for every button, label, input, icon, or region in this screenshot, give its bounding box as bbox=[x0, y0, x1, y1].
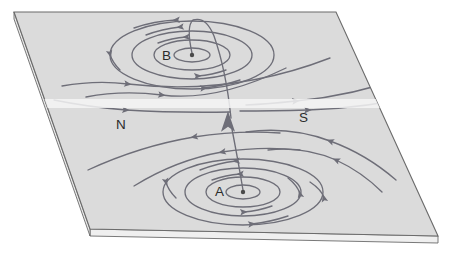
magnetic-field-diagram: B A N S bbox=[0, 0, 453, 255]
label-s: S bbox=[299, 110, 308, 125]
figure-root: B A N S bbox=[0, 0, 453, 255]
label-a: A bbox=[215, 184, 224, 199]
scan-band-artifact bbox=[0, 99, 453, 108]
label-b: B bbox=[162, 48, 171, 63]
pole-a-center-dot bbox=[241, 190, 245, 194]
pole-b-center-dot bbox=[190, 53, 194, 57]
label-n: N bbox=[116, 117, 126, 132]
